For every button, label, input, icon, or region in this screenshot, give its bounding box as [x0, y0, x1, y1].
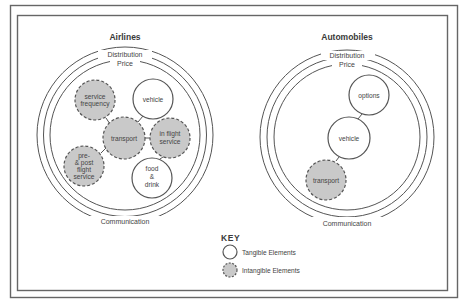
product-elements-diagram: Airlines Distribution Price Communicatio… — [0, 0, 468, 305]
ring-label-communication: Communication — [323, 220, 372, 227]
svg-text:service: service — [85, 93, 106, 100]
svg-text:vehicle: vehicle — [143, 96, 164, 103]
ring-label-distribution: Distribution — [107, 51, 142, 58]
airlines-panel: Airlines Distribution Price Communicatio… — [37, 32, 213, 226]
node-pre-post-flight-service: pre- & post flight service — [64, 146, 104, 186]
svg-text:Intangible Elements: Intangible Elements — [242, 267, 301, 275]
svg-text:food: food — [146, 165, 159, 172]
node-in-flight-service: in flight service — [150, 118, 190, 158]
legend-item-tangible: Tangible Elements — [223, 245, 297, 259]
tangible-swatch-icon — [223, 245, 237, 259]
legend-item-intangible: Intangible Elements — [223, 263, 301, 277]
svg-text:&: & — [150, 173, 155, 180]
node-options: options — [349, 75, 389, 115]
node-vehicle: vehicle — [133, 79, 173, 119]
link-in-flight-food — [160, 157, 163, 159]
node-food-drink: food & drink — [132, 158, 172, 198]
svg-text:options: options — [358, 92, 380, 100]
ring-label-price: Price — [339, 61, 355, 68]
link-options-vehicle — [358, 114, 362, 119]
svg-text:drink: drink — [145, 181, 160, 188]
ring-label-communication: Communication — [101, 218, 150, 225]
link-transport-vehicle — [138, 116, 143, 122]
svg-text:service: service — [160, 138, 181, 145]
ring-label-price: Price — [117, 60, 133, 67]
automobiles-panel: Automobiles Distribution Price Communica… — [260, 32, 434, 227]
legend: KEY Tangible Elements Intangible Element… — [221, 233, 301, 277]
node-vehicle: vehicle — [328, 117, 370, 159]
link-vehicle-transport — [336, 157, 339, 161]
svg-text:transport: transport — [313, 177, 339, 185]
svg-text:transport: transport — [111, 135, 137, 143]
ring-label-distribution: Distribution — [329, 52, 364, 59]
svg-text:service: service — [74, 173, 95, 180]
node-transport: transport — [103, 117, 145, 159]
panel-title-automobiles: Automobiles — [321, 32, 373, 42]
legend-title: KEY — [221, 233, 240, 243]
intangible-swatch-icon — [223, 263, 237, 277]
node-transport: transport — [306, 160, 346, 200]
svg-text:in flight: in flight — [160, 130, 181, 138]
link-transport-pre-post — [101, 148, 106, 153]
svg-text:frequency: frequency — [81, 100, 111, 108]
svg-text:Tangible Elements: Tangible Elements — [242, 249, 297, 257]
panel-title-airlines: Airlines — [109, 32, 140, 42]
svg-text:vehicle: vehicle — [339, 135, 360, 142]
node-service-frequency: service frequency — [75, 80, 115, 120]
